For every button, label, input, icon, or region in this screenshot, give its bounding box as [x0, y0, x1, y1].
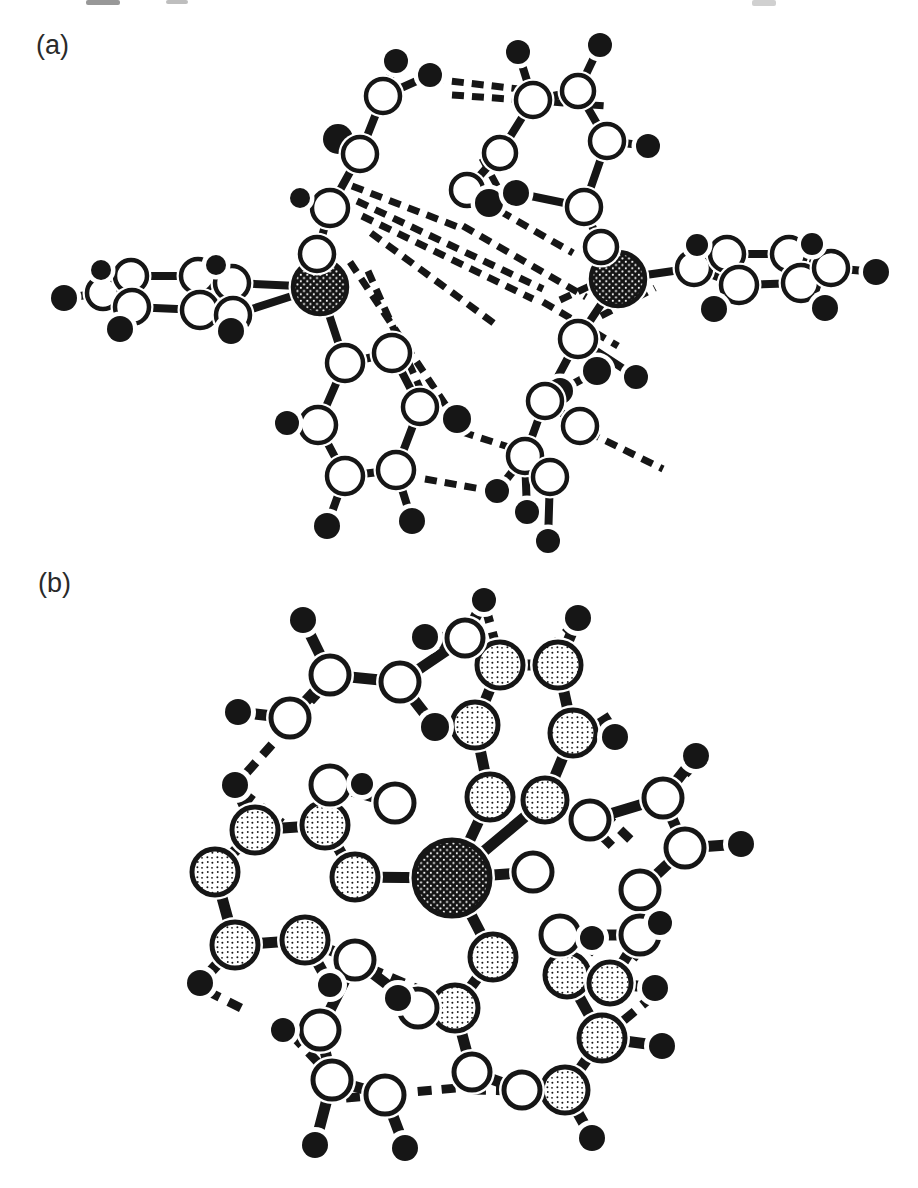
bond-dashed-hydrogen — [463, 226, 586, 297]
atom-open-circle — [590, 124, 624, 158]
atom-open-circle — [563, 409, 597, 443]
atom-filled-black — [385, 985, 411, 1011]
atom-filled-black — [225, 699, 251, 725]
atom-open-circle — [516, 83, 550, 117]
atom-filled-black — [218, 318, 244, 344]
atom-filled-black — [187, 970, 213, 996]
atom-open-circle — [300, 407, 336, 443]
atom-open-circle — [301, 1011, 339, 1049]
atom-filled-black — [392, 1135, 418, 1161]
atom-filled-black — [648, 911, 672, 935]
atom-filled-black — [290, 188, 310, 208]
atom-open-circle — [621, 871, 659, 909]
atom-filled-black — [314, 513, 340, 539]
atom-filled-black — [91, 260, 111, 280]
atom-open-circle — [541, 916, 579, 954]
atom-filled-black — [642, 975, 668, 1001]
atom-filled-black — [683, 743, 709, 769]
atom-filled-black — [399, 508, 425, 534]
atom-open-circle — [300, 237, 334, 271]
atom-dotted-stippled — [452, 702, 498, 748]
atom-open-circle — [311, 766, 349, 804]
atom-filled-black — [318, 973, 342, 997]
atom-filled-black — [290, 607, 316, 633]
atom-filled-black — [624, 365, 648, 389]
atom-dotted-stippled — [542, 1067, 588, 1113]
atom-filled-black — [686, 234, 708, 256]
panel-a-molecule-side-view — [47, 29, 894, 558]
atom-filled-black — [472, 588, 496, 612]
atom-open-circle — [327, 345, 363, 381]
atom-filled-black — [812, 295, 838, 321]
atom-dotted-stippled — [192, 849, 238, 895]
atom-filled-black — [51, 285, 77, 311]
atom-filled-black — [565, 605, 591, 631]
atom-filled-black — [351, 773, 373, 795]
atom-filled-black — [583, 357, 611, 385]
atom-dotted-stippled — [523, 778, 567, 822]
atom-filled-black — [418, 63, 442, 87]
bond-dashed-hydrogen — [500, 211, 573, 253]
atom-metal-stippled — [414, 840, 490, 916]
atom-filled-black — [863, 259, 889, 285]
atom-open-circle — [343, 137, 377, 171]
atom-dotted-stippled — [232, 807, 278, 853]
bond-dashed-hydrogen — [588, 432, 663, 469]
atom-open-circle — [585, 231, 617, 263]
bond-dashed-hydrogen — [357, 201, 543, 289]
atom-filled-black — [302, 1132, 328, 1158]
atom-filled-black — [107, 316, 133, 342]
atom-open-circle — [567, 190, 601, 224]
atom-filled-black — [536, 529, 560, 553]
atom-filled-black — [275, 411, 299, 435]
atom-filled-black — [384, 49, 408, 73]
atom-open-circle — [378, 452, 414, 488]
atom-filled-black — [801, 233, 823, 255]
bond-dashed-hydrogen — [362, 216, 533, 299]
bond-dashed-hydrogen — [432, 79, 528, 90]
atom-open-circle — [311, 656, 349, 694]
atom-filled-black — [443, 405, 471, 433]
atom-open-circle — [514, 853, 552, 891]
atom-dotted-stippled — [470, 934, 516, 980]
atom-filled-black — [421, 713, 449, 741]
atom-filled-black — [602, 724, 628, 750]
atom-open-circle — [403, 390, 437, 424]
atom-open-circle — [376, 784, 414, 822]
atom-dotted-stippled — [535, 642, 581, 688]
atom-open-circle — [562, 75, 594, 107]
atom-dotted-stippled — [589, 962, 631, 1004]
atom-open-circle — [366, 79, 400, 113]
atom-filled-black — [701, 296, 727, 322]
atom-open-circle — [366, 1076, 404, 1114]
atom-dotted-stippled — [282, 917, 328, 963]
atom-dotted-stippled — [332, 854, 378, 900]
atom-filled-black — [580, 926, 604, 950]
atom-filled-black — [515, 500, 539, 524]
atom-dotted-stippled — [467, 774, 513, 820]
atom-open-circle — [271, 699, 309, 737]
atom-dotted-stippled — [550, 710, 596, 756]
atom-open-circle — [374, 335, 410, 371]
atom-filled-black — [222, 772, 248, 798]
atom-open-circle — [381, 663, 419, 701]
atom-filled-black — [206, 255, 226, 275]
atom-filled-black — [636, 134, 660, 158]
atom-filled-black — [271, 1018, 295, 1042]
atom-dotted-stippled — [579, 1015, 625, 1061]
atom-open-circle — [454, 1054, 490, 1090]
atom-dotted-stippled — [212, 922, 258, 968]
atom-open-circle — [447, 620, 483, 656]
atom-open-circle — [327, 458, 363, 494]
atom-open-circle — [312, 190, 348, 226]
atom-open-circle — [504, 1072, 540, 1108]
atom-dotted-stippled — [302, 802, 348, 848]
atom-filled-black — [485, 479, 509, 503]
atom-open-circle — [666, 829, 704, 867]
bond-dashed-hydrogen — [425, 479, 487, 490]
atom-filled-black — [503, 180, 529, 206]
atom-filled-black — [728, 831, 754, 857]
molecular-structure-figure — [0, 0, 918, 1188]
atom-open-circle — [528, 384, 562, 418]
atom-open-circle — [571, 801, 609, 839]
